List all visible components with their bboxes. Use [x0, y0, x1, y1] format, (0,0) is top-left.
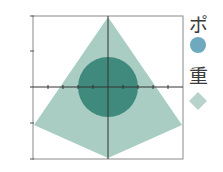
legend-label-jyu: 重 [189, 67, 208, 86]
legend-circle-marker [190, 37, 206, 53]
legend-label-po: ポ [189, 16, 208, 35]
legend-diamond-marker [189, 92, 207, 110]
